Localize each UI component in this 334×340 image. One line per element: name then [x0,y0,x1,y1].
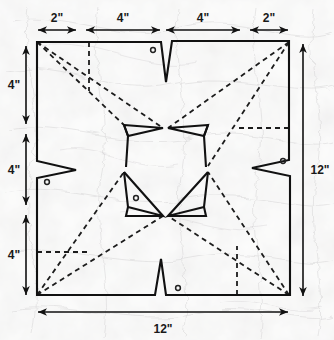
dim-label-left-1: 4" [8,78,20,92]
dim-label-right-overall: 12" [310,163,329,177]
dim-label-top-2: 4" [117,11,129,25]
dim-label-top-3: 4" [197,11,209,25]
technical-drawing-canvas: 2" 4" 4" 2" 4" 4" 4" 12" 12" [0,0,334,340]
pattern-diagram: 2" 4" 4" 2" 4" 4" 4" 12" 12" [0,0,334,340]
dim-label-top-1: 2" [51,11,63,25]
dim-label-top-4: 2" [263,11,275,25]
dim-label-left-3: 4" [8,248,20,262]
dim-label-bottom-overall: 12" [153,322,172,336]
dim-label-left-2: 4" [8,163,20,177]
